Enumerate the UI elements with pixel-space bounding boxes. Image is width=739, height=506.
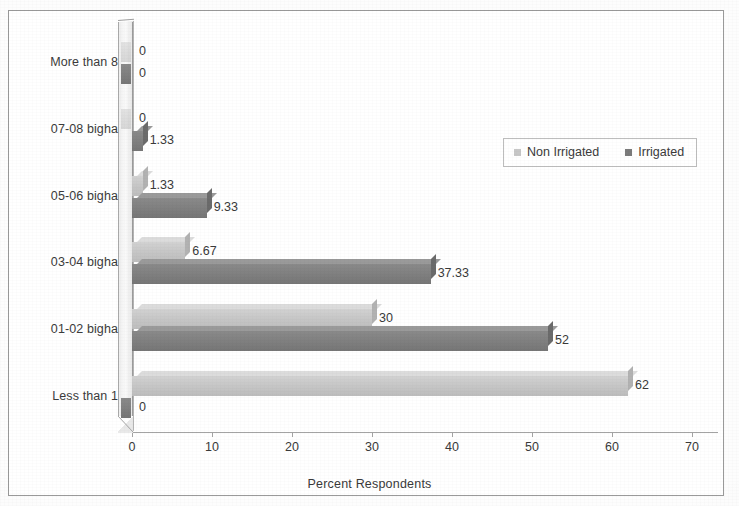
x-axis-tick-mark-1 [212, 433, 213, 437]
x-axis-tick-label-4: 40 [432, 440, 472, 454]
bar-irrigated-3 [132, 198, 207, 218]
bar-non-irrigated-5-zero [121, 42, 131, 62]
bar-value-label-non-irrigated-2: 6.67 [192, 244, 216, 258]
bar-non-irrigated-4-zero [121, 109, 131, 129]
legend-swatch-icon-irrigated [625, 149, 632, 156]
bar-value-label-non-irrigated-3: 1.33 [150, 178, 174, 192]
chart-plot-area: Less than 101-02 bigha03-04 bigha05-06 b… [0, 0, 739, 506]
bar-top-face [137, 371, 638, 376]
bar-face [121, 64, 131, 84]
legend-swatch-icon-non-irrigated [514, 149, 521, 156]
x-axis-tick-mark-6 [612, 433, 613, 437]
bar-face [132, 131, 143, 151]
y-axis-label-4: 07-08 bigha [14, 122, 118, 136]
bar-side-face [143, 166, 148, 191]
bar-value-label-irrigated-1: 52 [555, 333, 569, 347]
bar-side-face [185, 232, 190, 257]
bar-side-face [143, 121, 148, 146]
bar-value-label-irrigated-2: 37.33 [438, 266, 469, 280]
bar-irrigated-0-zero [121, 398, 131, 418]
bar-side-face [207, 188, 212, 213]
y-axis-label-0: Less than 1 [14, 389, 118, 403]
bar-value-label-non-irrigated-5: 0 [139, 44, 146, 58]
legend-item-irrigated: Irrigated [625, 145, 684, 159]
legend-label-irrigated: Irrigated [638, 145, 684, 159]
bar-value-label-non-irrigated-1: 30 [379, 311, 393, 325]
x-axis-title: Percent Respondents [0, 477, 739, 491]
bar-value-label-non-irrigated-0: 62 [635, 378, 649, 392]
bar-non-irrigated-0 [132, 376, 628, 396]
y-axis-label-1: 01-02 bigha [14, 322, 118, 336]
y-axis-label-3: 05-06 bigha [14, 189, 118, 203]
bar-face [132, 376, 628, 396]
bar-top-face [137, 304, 382, 309]
chart-legend: Non Irrigated Irrigated [503, 138, 697, 167]
y-axis-line [132, 22, 133, 432]
bar-value-label-irrigated-4: 1.33 [150, 133, 174, 147]
figure-container: Less than 101-02 bigha03-04 bigha05-06 b… [0, 0, 739, 506]
x-axis-tick-label-0: 0 [112, 440, 152, 454]
x-axis-tick-mark-2 [292, 433, 293, 437]
bar-face [121, 42, 131, 62]
x-axis-tick-label-7: 70 [672, 440, 712, 454]
bar-face [121, 398, 131, 418]
x-axis-tick-mark-0 [132, 433, 133, 437]
bar-top-face [137, 326, 558, 331]
legend-item-non-irrigated: Non Irrigated [514, 145, 599, 159]
bar-side-face [372, 299, 377, 324]
bar-top-face [137, 193, 217, 198]
x-axis-tick-label-5: 50 [512, 440, 552, 454]
bar-face [132, 331, 548, 351]
bar-face [121, 109, 131, 129]
bar-value-label-irrigated-3: 9.33 [214, 200, 238, 214]
bar-face [132, 198, 207, 218]
x-axis-tick-label-1: 10 [192, 440, 232, 454]
bar-side-face [628, 366, 633, 391]
y-axis-label-2: 03-04 bigha [14, 255, 118, 269]
bar-irrigated-2 [132, 264, 431, 284]
bar-side-face [548, 321, 553, 346]
bar-irrigated-1 [132, 331, 548, 351]
bar-irrigated-5-zero [121, 64, 131, 84]
bar-irrigated-4 [132, 131, 143, 151]
x-axis-tick-label-3: 30 [352, 440, 392, 454]
x-axis-tick-mark-5 [532, 433, 533, 437]
bar-top-face [137, 259, 441, 264]
x-axis-tick-mark-4 [452, 433, 453, 437]
bar-side-face [431, 254, 436, 279]
x-axis-line [118, 432, 718, 433]
legend-label-non-irrigated: Non Irrigated [527, 145, 599, 159]
x-axis-tick-mark-3 [372, 433, 373, 437]
chart-3d-floor-diagonal [117, 415, 137, 435]
x-axis-tick-label-2: 20 [272, 440, 312, 454]
x-axis-tick-mark-7 [692, 433, 693, 437]
bar-face [132, 264, 431, 284]
bar-value-label-irrigated-5: 0 [139, 66, 146, 80]
y-axis-label-5: More than 8 [14, 55, 118, 69]
bar-value-label-irrigated-0: 0 [139, 400, 146, 414]
x-axis-tick-label-6: 60 [592, 440, 632, 454]
